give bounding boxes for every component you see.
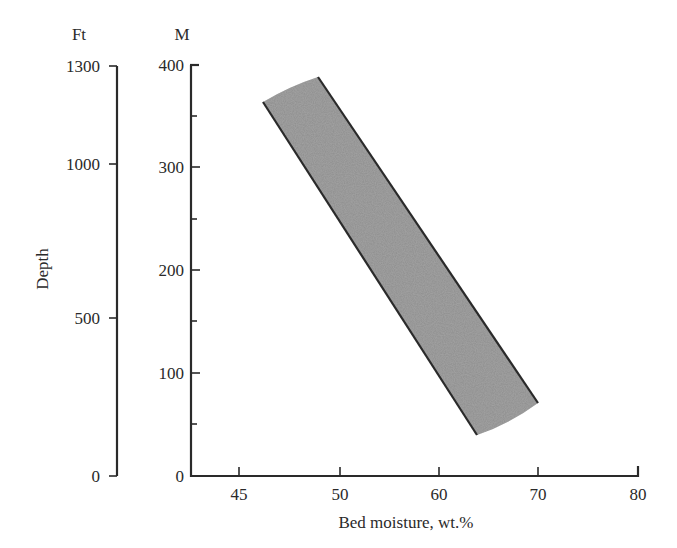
band-fill bbox=[263, 77, 538, 435]
x-tick-50: 50 bbox=[332, 485, 349, 504]
x-tick-60: 60 bbox=[431, 485, 448, 504]
x-axis-label: Bed moisture, wt.% bbox=[338, 513, 473, 532]
ft-unit-label: Ft bbox=[72, 25, 86, 44]
m-tick-300: 300 bbox=[159, 158, 185, 177]
m-tick-0: 0 bbox=[176, 467, 185, 486]
ft-tick-0: 0 bbox=[92, 467, 101, 486]
depth-axis-label: Depth bbox=[33, 248, 52, 290]
ft-tick-500: 500 bbox=[75, 309, 101, 328]
m-tick-100: 100 bbox=[159, 364, 185, 383]
m-tick-400: 400 bbox=[159, 56, 185, 75]
depth-vs-bed-moisture-chart: Ft M 1300 1000 500 0 Depth 400 300 200 1… bbox=[0, 0, 677, 548]
x-tick-80: 80 bbox=[630, 485, 647, 504]
m-tick-200: 200 bbox=[159, 261, 185, 280]
ft-axis: 1300 1000 500 0 bbox=[66, 57, 117, 486]
ft-tick-1300: 1300 bbox=[66, 57, 100, 76]
x-tick-70: 70 bbox=[530, 485, 547, 504]
ft-tick-1000: 1000 bbox=[66, 155, 100, 174]
x-tick-45: 45 bbox=[231, 485, 248, 504]
m-unit-label: M bbox=[174, 25, 189, 44]
x-axis: 45 50 60 70 80 bbox=[190, 466, 647, 504]
m-axis: 400 300 200 100 0 bbox=[159, 56, 201, 486]
moisture-depth-band bbox=[263, 77, 538, 435]
